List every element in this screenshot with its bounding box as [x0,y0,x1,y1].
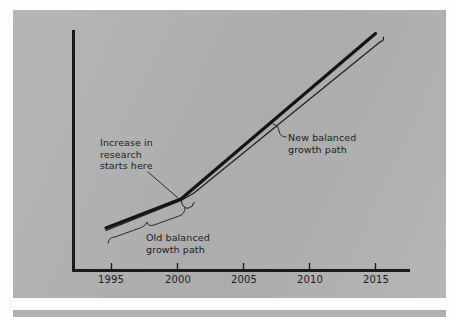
growth-path-chart [0,0,456,317]
x-tick-label-2015: 2015 [363,274,389,285]
increase-leader-line [148,172,178,198]
x-tick-label-2010: 2010 [297,274,323,285]
x-tick-label-2005: 2005 [231,274,257,285]
annotation-old-balanced-growth-path: Old balanced growth path [146,232,210,255]
divergence-notch [181,201,194,209]
new-path-leader-hook [273,124,286,137]
annotation-new-balanced-growth-path: New balanced growth path [288,132,356,155]
x-tick-label-1995: 1995 [98,274,124,285]
x-tick-label-2000: 2000 [165,274,191,285]
x-axis-ticks [112,263,376,270]
thin-line-end-hook [380,37,384,42]
page-root: Increase in research starts here Old bal… [0,0,456,317]
new-balanced-growth-line [106,34,376,229]
annotation-increase-in-research: Increase in research starts here [100,137,153,172]
